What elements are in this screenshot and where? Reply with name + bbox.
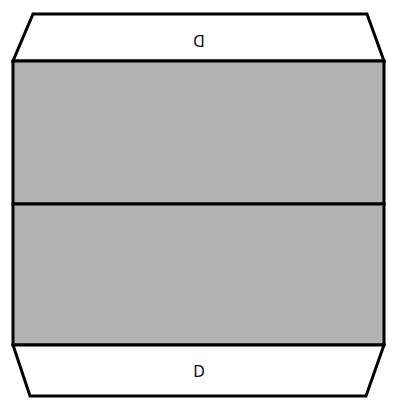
lower-panel (13, 204, 384, 345)
box-net-diagram: D D (0, 0, 398, 412)
upper-panel (13, 61, 384, 204)
bottom-flap-label: D (193, 363, 205, 381)
top-flap-label: D (193, 31, 205, 49)
